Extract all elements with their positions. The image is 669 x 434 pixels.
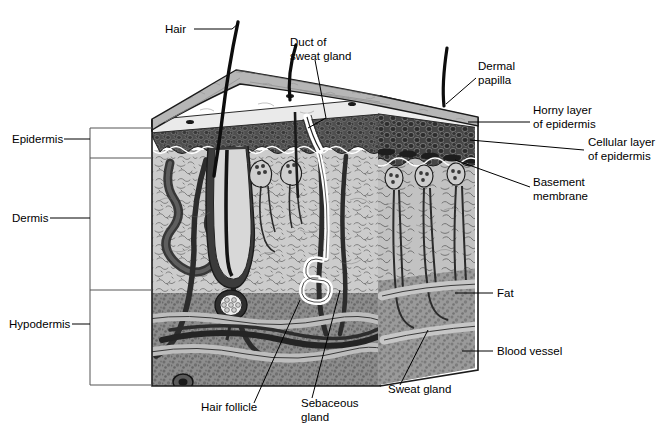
- callout-line: Dermal: [478, 60, 515, 72]
- callout-line: Hair follicle: [201, 401, 257, 413]
- front-face: [148, 98, 384, 390]
- callout-line: papilla: [478, 74, 512, 86]
- diagram-canvas: EpidermisDermisHypodermis HairDuct ofswe…: [0, 0, 669, 434]
- callout-line: Sebaceous: [301, 397, 359, 409]
- callout-line: of epidermis: [588, 150, 651, 162]
- callout-line: Cellular layer: [588, 136, 655, 148]
- callout-label-hair: Hair: [165, 23, 186, 35]
- callout-label-hair-follicle: Hair follicle: [201, 401, 257, 413]
- callout-line: Basement: [533, 176, 586, 188]
- callout-line: Duct of: [290, 36, 327, 48]
- bracket-label-dermis: Dermis: [12, 212, 49, 224]
- callout-line: Blood vessel: [497, 345, 562, 357]
- bracket-label-epidermis: Epidermis: [12, 133, 63, 145]
- callout-line: membrane: [533, 190, 588, 202]
- callout-label-sweat-gland: Sweat gland: [388, 383, 451, 395]
- callout-line: of epidermis: [533, 118, 596, 130]
- callout-line: Horny layer: [533, 104, 592, 116]
- callout-line: Fat: [497, 287, 514, 299]
- skin-cross-section-figure: EpidermisDermisHypodermis HairDuct ofswe…: [0, 0, 669, 434]
- callout-label-fat: Fat: [497, 287, 514, 299]
- bracket-label-hypodermis: Hypodermis: [9, 318, 71, 330]
- right-cut-face: [370, 90, 485, 390]
- callout-label-blood-vessel: Blood vessel: [497, 345, 562, 357]
- callout-line: Sweat gland: [388, 383, 451, 395]
- callout-line: gland: [301, 411, 329, 423]
- callout-line: sweat gland: [290, 50, 351, 62]
- callout-line: Hair: [165, 23, 186, 35]
